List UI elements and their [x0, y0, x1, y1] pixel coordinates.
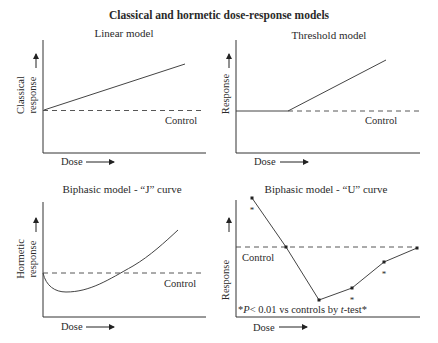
panel-threshold: Threshold model Control Response Dose	[220, 29, 420, 167]
panel-title: Threshold model	[292, 29, 367, 41]
y-label: Response	[220, 260, 231, 301]
panel-linear: Linear model Control Classical response …	[15, 27, 206, 167]
x-label: Dose	[253, 322, 275, 333]
response-line	[252, 198, 417, 300]
panel-title: Biphasic model - “U” curve	[265, 183, 388, 195]
footnote: *P< 0.01 vs controls by t-test*	[238, 304, 367, 315]
data-point	[416, 247, 419, 250]
control-label: Control	[164, 278, 196, 289]
response-curve	[43, 230, 178, 292]
data-point	[251, 197, 254, 200]
control-label: Control	[365, 115, 397, 126]
y-label: Response	[220, 74, 231, 115]
panel-ucurve: Biphasic model - “U” curve * * * Control…	[220, 183, 420, 333]
figure-title: Classical and hormetic dose-response mod…	[109, 9, 330, 22]
figure: Classical and hormetic dose-response mod…	[0, 0, 438, 343]
data-point	[383, 261, 386, 264]
y-label-line1: Classical	[15, 76, 26, 114]
y-label-line2: response	[27, 240, 38, 277]
significance-star: *	[382, 269, 387, 279]
data-point	[318, 299, 321, 302]
response-line	[44, 64, 185, 110]
x-label: Dose	[254, 156, 276, 167]
significance-star: *	[250, 205, 255, 215]
data-points	[251, 197, 419, 302]
panel-jcurve: Biphasic model - “J” curve Control Horme…	[15, 183, 206, 332]
control-label: Control	[242, 252, 274, 263]
data-point	[285, 246, 288, 249]
panel-title: Linear model	[95, 27, 154, 39]
x-label: Dose	[61, 321, 83, 332]
x-label: Dose	[61, 156, 83, 167]
response-line	[288, 60, 386, 111]
y-label-line1: Hormetic	[15, 239, 26, 279]
control-label: Control	[165, 115, 197, 126]
data-point	[351, 287, 354, 290]
y-label-line2: response	[27, 76, 38, 113]
panel-title: Biphasic model - “J” curve	[62, 183, 181, 195]
